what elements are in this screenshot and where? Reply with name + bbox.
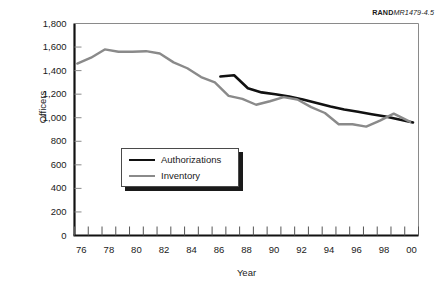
y-tick-label: 200: [27, 207, 67, 217]
y-tick-label: 1,000: [27, 113, 67, 123]
x-tick-label: 00: [397, 245, 427, 255]
y-tick-label: 400: [27, 183, 67, 193]
legend-item-authorizations: Authorizations: [129, 153, 221, 167]
legend-item-inventory: Inventory: [129, 169, 200, 183]
legend-swatch-inventory: [129, 175, 155, 177]
legend-swatch-authorizations: [129, 159, 155, 161]
y-tick-label: 1,400: [27, 66, 67, 76]
x-tick-label: 86: [204, 245, 234, 255]
x-tick-label: 98: [369, 245, 399, 255]
y-axis-title: Officers: [38, 72, 48, 142]
legend-label-authorizations: Authorizations: [161, 155, 221, 165]
x-tick-label: 94: [314, 245, 344, 255]
x-tick-label: 80: [121, 245, 151, 255]
x-tick-label: 84: [176, 245, 206, 255]
chart-figure: RANDMR1479-4.5 Officers Year 02004006008…: [0, 0, 440, 289]
x-tick-label: 92: [287, 245, 317, 255]
x-axis-title: Year: [74, 268, 419, 278]
y-tick-label: 800: [27, 136, 67, 146]
chart-legend: Authorizations Inventory: [121, 148, 239, 187]
x-tick-label: 78: [94, 245, 124, 255]
x-tick-label: 76: [66, 245, 96, 255]
legend-label-inventory: Inventory: [161, 171, 200, 181]
x-tick-label: 96: [342, 245, 372, 255]
y-tick-label: 0: [27, 231, 67, 241]
y-tick-label: 1,200: [27, 89, 67, 99]
y-tick-label: 600: [27, 160, 67, 170]
y-tick-label: 1,800: [27, 19, 67, 29]
x-tick-label: 82: [149, 245, 179, 255]
y-tick-label: 1,600: [27, 42, 67, 52]
x-tick-label: 90: [259, 245, 289, 255]
x-tick-label: 88: [232, 245, 262, 255]
